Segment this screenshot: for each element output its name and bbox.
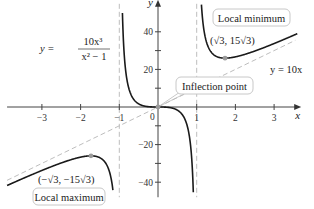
inflection-point-label: Inflection point bbox=[182, 81, 247, 92]
inflection-point-callout: Inflection point bbox=[176, 77, 253, 94]
x-tick-label: 1 bbox=[194, 113, 199, 123]
y-tick-label: −20 bbox=[138, 140, 153, 150]
x-tick-label: 2 bbox=[233, 113, 238, 123]
x-axis-label: x bbox=[294, 109, 300, 121]
local-maximum-callout: (−√3, −15√3) Local maximum bbox=[33, 174, 105, 205]
origin-label: 0 bbox=[150, 112, 155, 122]
local-maximum-coords: (−√3, −15√3) bbox=[38, 174, 95, 186]
local-minimum-point bbox=[223, 56, 228, 61]
x-tick-label: −1 bbox=[114, 113, 124, 123]
y-axis-arrow-icon bbox=[155, 0, 161, 7]
x-tick-label: −3 bbox=[37, 113, 47, 123]
oblique-asymptote-label: y = 10x bbox=[270, 64, 303, 75]
y-axis-label: y bbox=[147, 0, 153, 8]
chart: −3−2−1123−40−202040 x y 0 y = 10x³ x² − … bbox=[0, 0, 314, 209]
inflection-callout-line bbox=[158, 92, 180, 107]
y-tick-label: 40 bbox=[144, 27, 154, 37]
y-tick-label: −40 bbox=[138, 178, 153, 188]
equation-denominator: x² − 1 bbox=[82, 51, 107, 62]
inflection-callout-line bbox=[158, 94, 184, 107]
equation-lhs: y = bbox=[39, 43, 54, 54]
x-tick-label: −2 bbox=[76, 113, 86, 123]
inflection-point-point bbox=[156, 105, 161, 110]
oblique-asymptote-line bbox=[7, 40, 295, 180]
local-minimum-label: Local minimum bbox=[218, 13, 285, 24]
x-tick-label: 3 bbox=[272, 113, 277, 123]
local-maximum-point bbox=[89, 153, 94, 158]
local-minimum-coords: (√3, 15√3) bbox=[210, 35, 255, 47]
equation-numerator: 10x³ bbox=[84, 36, 103, 47]
y-tick-label: 20 bbox=[144, 65, 154, 75]
local-maximum-label: Local maximum bbox=[34, 192, 103, 203]
function-equation: y = 10x³ x² − 1 bbox=[39, 36, 110, 62]
